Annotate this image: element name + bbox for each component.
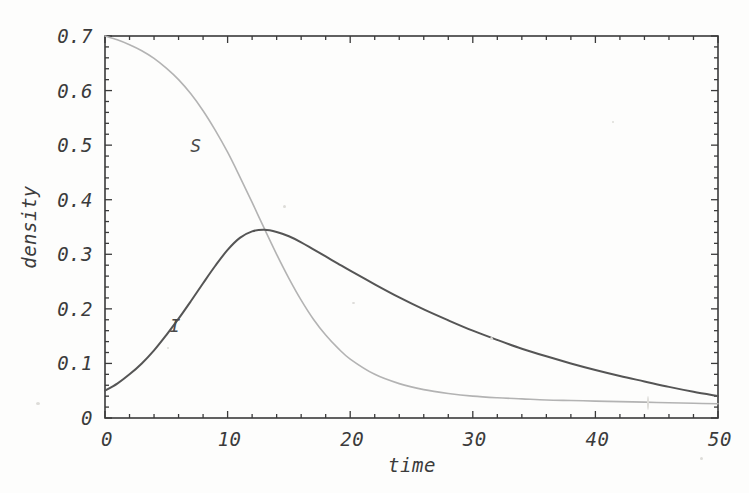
scan-speck	[167, 347, 169, 349]
scan-speck	[490, 337, 493, 340]
y-tick-label: 0.1	[57, 352, 93, 374]
x-tick-label: 10	[218, 428, 242, 450]
scan-speck	[700, 457, 703, 460]
scan-speck	[647, 396, 649, 410]
curve-label-S: S	[190, 135, 201, 156]
x-axis-label: time	[388, 454, 436, 476]
scan-speck	[352, 302, 355, 304]
x-tick-label: 20	[340, 428, 364, 450]
chart-figure: 01020304050 00.10.20.30.40.50.60.7 SI ti…	[0, 0, 749, 493]
scan-speck	[612, 121, 614, 123]
y-tick-label: 0.7	[57, 25, 93, 47]
figure-background	[0, 0, 749, 493]
y-tick-label: 0.6	[57, 80, 93, 102]
y-tick-label: 0	[81, 407, 93, 429]
x-tick-label: 50	[708, 428, 732, 450]
y-axis-label: density	[18, 185, 40, 269]
x-tick-label: 40	[585, 428, 609, 450]
y-tick-label: 0.4	[57, 189, 93, 211]
plot-canvas: 01020304050 00.10.20.30.40.50.60.7 SI ti…	[0, 0, 749, 493]
x-tick-label: 30	[462, 428, 487, 450]
y-tick-label: 0.2	[57, 298, 93, 320]
y-tick-label: 0.3	[57, 243, 93, 265]
x-tick-label: 0	[101, 428, 113, 450]
y-tick-label: 0.5	[57, 134, 93, 156]
curve-label-I: I	[169, 315, 180, 336]
scan-speck	[36, 402, 40, 405]
scan-speck	[283, 205, 286, 208]
